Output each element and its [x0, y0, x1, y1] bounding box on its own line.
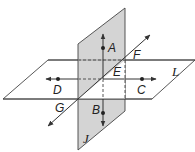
label-G: G	[55, 101, 64, 115]
point-C	[140, 77, 144, 81]
label-A: A	[107, 41, 116, 55]
label-F: F	[133, 48, 141, 62]
label-B: B	[92, 103, 100, 117]
label-C: C	[137, 83, 146, 97]
planes-diagram: A B D C E F G L J	[0, 0, 195, 152]
point-A	[101, 46, 105, 50]
label-D: D	[53, 83, 62, 97]
label-E: E	[113, 65, 122, 79]
diagram-canvas: A B D C E F G L J	[0, 0, 195, 152]
point-D	[56, 77, 60, 81]
label-plane-L: L	[171, 64, 179, 79]
point-B	[101, 111, 105, 115]
